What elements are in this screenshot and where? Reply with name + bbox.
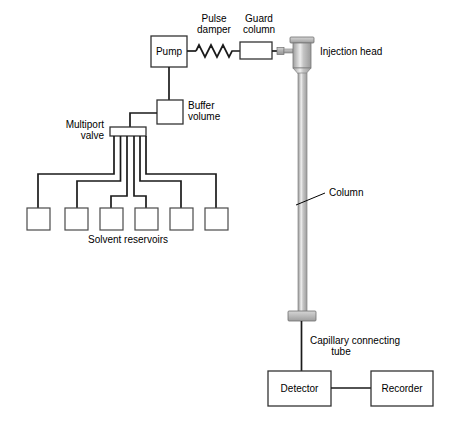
solvent-reservoir-6[interactable]: [205, 208, 228, 230]
buffer-volume-label-line1: Buffer: [188, 100, 215, 111]
pulse-damper-label-line1: Pulse: [201, 13, 226, 24]
multiport-valve-body[interactable]: [110, 127, 146, 136]
solvent-reservoirs-label: Solvent reservoirs: [88, 234, 168, 245]
recorder-component[interactable]: Recorder: [371, 371, 433, 406]
injection-head-label: Injection head: [320, 46, 382, 57]
pump-label: Pump: [156, 46, 183, 57]
buffer-volume-box[interactable]: [157, 100, 183, 124]
recorder-label: Recorder: [381, 383, 423, 394]
pulse-damper-component[interactable]: Pulse damper: [196, 13, 240, 57]
capillary-label-line1: Capillary connecting: [310, 335, 400, 346]
pulse-damper-spring[interactable]: [196, 45, 240, 57]
detector-component[interactable]: Detector: [268, 371, 331, 406]
multiport-valve-label-line1: Multiport: [66, 119, 105, 130]
capillary-tube-component: Capillary connecting tube: [302, 321, 401, 371]
multiport-valve-label-line2: valve: [81, 130, 105, 141]
column-tube[interactable]: [298, 73, 307, 313]
buffer-volume-label-line2: volume: [188, 111, 221, 122]
column-end-fitting: [288, 311, 316, 321]
injection-head-component[interactable]: Injection head: [290, 37, 382, 76]
injection-head-cap[interactable]: [290, 37, 314, 43]
guard-column-component[interactable]: Guard column: [240, 13, 275, 59]
injector-fitting-stem: [284, 49, 293, 53]
solvent-reservoir-4[interactable]: [135, 208, 158, 230]
injector-fitting-block: [277, 48, 284, 55]
solvent-reservoir-1[interactable]: [27, 208, 50, 230]
hplc-schematic-diagram: Pump Pulse damper Guard column In: [0, 0, 449, 425]
capillary-label-line2: tube: [331, 346, 351, 357]
buffer-to-valve-wire: [130, 113, 157, 127]
column-label: Column: [329, 187, 363, 198]
guard-column-label-line2: column: [243, 24, 275, 35]
guard-column-label-line1: Guard: [245, 13, 273, 24]
buffer-volume-component[interactable]: Buffer volume: [157, 100, 221, 124]
solvent-reservoir-2[interactable]: [65, 208, 88, 230]
solvent-reservoir-5[interactable]: [170, 208, 193, 230]
solvent-reservoir-3[interactable]: [100, 208, 123, 230]
pump-component[interactable]: Pump: [151, 36, 187, 67]
detector-label: Detector: [281, 383, 319, 394]
solvent-reservoirs-group: Solvent reservoirs: [27, 208, 228, 245]
injection-head-body[interactable]: [293, 43, 311, 68]
valve-port-1-wire: [38, 136, 114, 208]
guard-column-box[interactable]: [240, 42, 272, 59]
column-component[interactable]: Column: [296, 73, 363, 313]
pulse-damper-label-line2: damper: [197, 24, 232, 35]
